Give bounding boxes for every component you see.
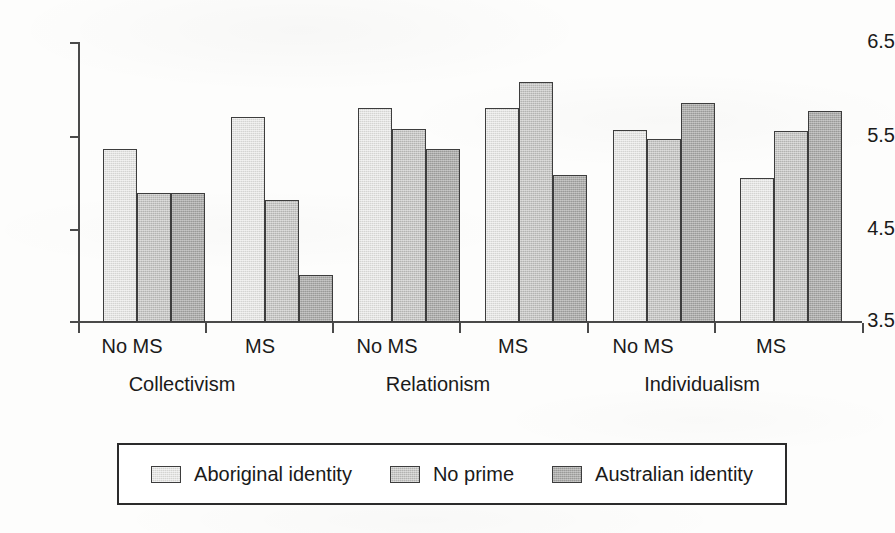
x-tick-mark: [459, 323, 461, 333]
x-group-label-relationism: Relationism: [348, 374, 528, 394]
legend-label-no-prime: No prime: [433, 464, 514, 484]
chart-legend: Aboriginal identity No prime Australian …: [117, 443, 787, 505]
legend-swatch-no-prime-icon: [390, 466, 420, 483]
x-tick-mark: [587, 323, 589, 333]
x-label-relationism-ms: MS: [453, 336, 573, 356]
x-group-label-individualism: Individualism: [602, 374, 802, 394]
bar: [647, 139, 681, 322]
legend-label-australian-identity: Australian identity: [595, 464, 753, 484]
legend-item-aboriginal-identity: Aboriginal identity: [151, 464, 352, 484]
bar: [740, 178, 774, 322]
x-label-collectivism-ms: MS: [200, 336, 320, 356]
bar: [681, 103, 715, 322]
bar: [553, 175, 587, 322]
x-tick-mark: [862, 323, 864, 333]
x-tick-mark: [332, 323, 334, 333]
x-tick-mark: [205, 323, 207, 333]
bar: [231, 117, 265, 322]
legend-item-australian-identity: Australian identity: [552, 464, 753, 484]
bar: [426, 149, 460, 322]
bar: [103, 149, 137, 322]
legend-items: Aboriginal identity No prime Australian …: [119, 445, 785, 503]
x-label-individualism-ms: MS: [711, 336, 831, 356]
bar: [137, 193, 171, 322]
bar: [392, 129, 426, 322]
bar: [171, 193, 205, 322]
legend-label-aboriginal-identity: Aboriginal identity: [194, 464, 352, 484]
x-label-individualism-no-ms: No MS: [583, 336, 703, 356]
bar: [808, 111, 842, 322]
x-tick-mark: [714, 323, 716, 333]
x-tick-mark: [78, 323, 80, 333]
bar: [519, 82, 553, 322]
legend-swatch-aboriginal-icon: [151, 466, 181, 483]
legend-item-no-prime: No prime: [390, 464, 514, 484]
x-label-relationism-no-ms: No MS: [327, 336, 447, 356]
x-group-label-collectivism: Collectivism: [92, 374, 272, 394]
bar: [299, 275, 333, 322]
legend-swatch-australian-icon: [552, 466, 582, 483]
bar: [485, 108, 519, 322]
bar: [774, 131, 808, 322]
bar: [358, 108, 392, 322]
figure-bar-chart: 6.5 5.5 4.5 3.5 No MS MS No MS MS No MS …: [0, 0, 895, 533]
x-label-collectivism-no-ms: No MS: [72, 336, 192, 356]
bar: [265, 200, 299, 322]
bar: [613, 130, 647, 322]
